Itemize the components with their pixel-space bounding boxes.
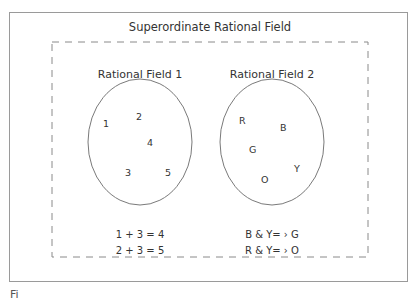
field-2-equation-2: R & Y= › O: [212, 245, 332, 256]
field-2-element: O: [261, 174, 268, 185]
field-1-equation-1: 1 + 3 = 4: [80, 229, 200, 240]
rational-field-1-ellipse: [88, 79, 192, 205]
diagram-shapes: [0, 0, 420, 301]
rational-field-1-title: Rational Field 1: [80, 68, 200, 81]
field-2-equation-1: B & Y= › G: [212, 229, 332, 240]
field-2-element: Y: [294, 163, 300, 174]
field-1-element: 1: [103, 118, 109, 129]
field-1-element: 3: [125, 167, 131, 178]
figure-caption-fragment: Fi: [10, 288, 19, 301]
field-1-equation-2: 2 + 3 = 5: [80, 245, 200, 256]
field-1-element: 4: [147, 137, 153, 148]
field-2-element: G: [249, 144, 256, 155]
rational-field-2-ellipse: [220, 79, 324, 205]
field-2-element: R: [239, 115, 246, 126]
field-1-element: 5: [165, 167, 171, 178]
rational-field-2-title: Rational Field 2: [212, 68, 332, 81]
field-1-element: 2: [136, 111, 142, 122]
field-2-element: B: [280, 122, 287, 133]
